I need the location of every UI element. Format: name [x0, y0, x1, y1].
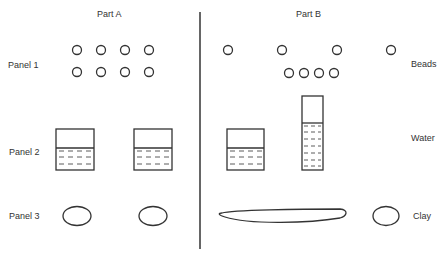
row-label-panel-1: Panel 1 [8, 60, 39, 70]
side-label-clay: Clay [413, 211, 431, 221]
clay-ball-part-b [373, 207, 399, 226]
beads-part-a [73, 46, 154, 77]
clay-ball-part-a-2 [139, 207, 167, 226]
header-part-a: Part A [97, 9, 122, 19]
beaker-part-b [227, 129, 264, 170]
beaker-part-a-1 [56, 129, 94, 170]
side-label-beads: Beads [411, 59, 437, 69]
row-label-panel-3: Panel 3 [9, 211, 40, 221]
beads-part-b [224, 46, 396, 78]
side-label-water: Water [411, 133, 435, 143]
beaker-part-a-2 [134, 129, 172, 170]
diagram-canvas [0, 0, 439, 256]
clay-ball-part-a-1 [63, 207, 91, 226]
header-part-b: Part B [296, 9, 321, 19]
row-label-panel-2: Panel 2 [9, 147, 40, 157]
cylinder-part-b [302, 96, 323, 170]
clay-elongated-part-b [219, 209, 346, 222]
